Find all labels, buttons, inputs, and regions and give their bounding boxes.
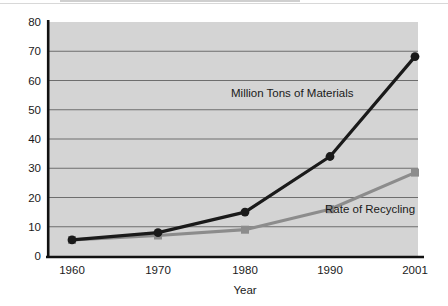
series-label-million-tons: Million Tons of Materials: [231, 87, 354, 99]
y-tick-label: 50: [28, 104, 41, 116]
x-tick-labels: 1960 1970 1980 1990 2001: [59, 264, 428, 276]
y-tick-label: 40: [28, 133, 41, 145]
x-tick-label: 1970: [145, 264, 171, 276]
y-tick-label: 0: [35, 250, 41, 262]
x-tick-label: 2001: [402, 264, 428, 276]
x-tick-label: 1990: [317, 264, 343, 276]
line-chart-figure: 80 70 60 50 40 30 20 10 0 1960 1970 1980…: [0, 0, 448, 306]
marker-black-1970: [154, 228, 163, 237]
y-tick-label: 10: [28, 221, 41, 233]
marker-black-1960: [68, 236, 77, 245]
marker-black-1980: [241, 208, 250, 217]
y-tick-label: 30: [28, 162, 41, 174]
marker-black-2001: [411, 52, 420, 61]
y-tick-label: 20: [28, 192, 41, 204]
series-label-rate-of-recycling: Rate of Recycling: [325, 203, 415, 215]
x-axis-title: Year: [233, 284, 256, 296]
x-tick-label: 1960: [59, 264, 85, 276]
y-tick-label: 60: [28, 75, 41, 87]
marker-gray-1980: [241, 226, 249, 234]
marker-black-1990: [326, 152, 335, 161]
marker-gray-2001: [411, 169, 419, 177]
y-tick-label: 80: [28, 16, 41, 28]
y-tick-label: 70: [28, 45, 41, 57]
x-tick-label: 1980: [232, 264, 258, 276]
y-tick-labels: 80 70 60 50 40 30 20 10 0: [28, 16, 41, 262]
